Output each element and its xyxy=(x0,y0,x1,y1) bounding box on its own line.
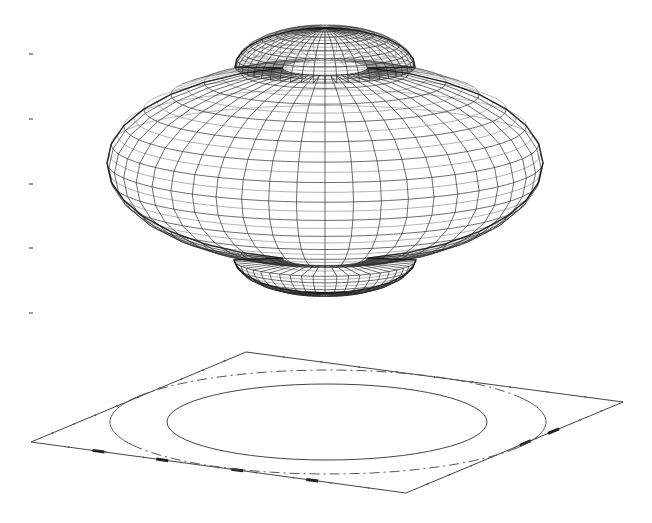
z-axis-ticks xyxy=(29,54,33,313)
contour-outer-segment xyxy=(110,396,139,448)
contour-outer-segment xyxy=(139,370,517,396)
surface-plot-figure xyxy=(0,0,652,523)
contour-projection-plane xyxy=(31,352,623,493)
surface-plot-canvas xyxy=(0,0,652,523)
wireframe-surface xyxy=(107,25,543,297)
projection-plane-outline xyxy=(31,352,623,493)
contour-inner xyxy=(167,384,487,460)
contour-lines xyxy=(110,370,546,474)
contour-outer-segment xyxy=(517,396,546,448)
